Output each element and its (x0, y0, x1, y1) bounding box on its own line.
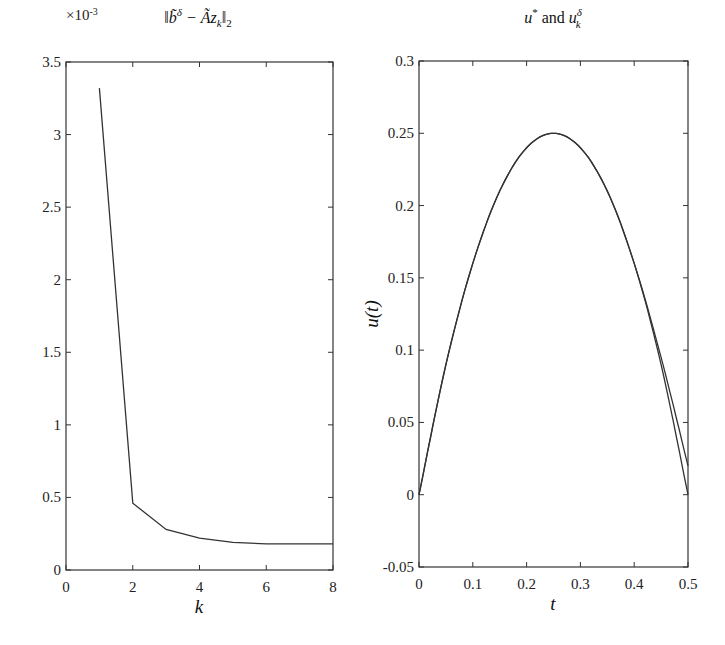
left-axes-box (66, 62, 333, 570)
figure: ‖b̃δ − Ãzk‖2 ×10-3 02468 00.511.522.533.… (0, 0, 725, 645)
y-tick-label: 3 (54, 127, 62, 143)
y-tick-label: -0.05 (383, 559, 414, 575)
y-tick-label: 2.5 (42, 199, 61, 215)
y-tick-label: 0.05 (388, 414, 414, 430)
y-tick-label: 2 (54, 272, 62, 288)
y-tick-label: 0.25 (388, 125, 414, 141)
left-x-axis-label: k (195, 596, 204, 617)
right-plot-title: u* and uδk (524, 6, 583, 30)
y-tick-label: 0.1 (395, 342, 414, 358)
y-tick-label: 0 (54, 562, 62, 578)
left-plot-title: ‖b̃δ − Ãzk‖2 (164, 6, 231, 29)
right-y-axis-label: u(t) (361, 300, 383, 327)
y-tick-label: 3.5 (42, 54, 61, 70)
right-series-line-0 (419, 133, 688, 494)
y-tick-label: 0 (407, 487, 415, 503)
y-tick-label: 0.3 (395, 53, 414, 69)
x-tick-label: 0 (415, 576, 423, 592)
y-tick-label: 0.2 (395, 198, 414, 214)
left-plot: ‖b̃δ − Ãzk‖2 ×10-3 02468 00.511.522.533.… (42, 6, 337, 617)
x-tick-label: 0.2 (517, 576, 536, 592)
y-multiplier-label: ×10-3 (66, 6, 98, 23)
x-tick-label: 0.3 (571, 576, 590, 592)
x-tick-label: 0.1 (463, 576, 482, 592)
y-tick-label: 0.15 (388, 270, 414, 286)
x-tick-label: 0.4 (625, 576, 644, 592)
x-tick-label: 8 (329, 579, 337, 595)
right-plot: u* and uδk 00.10.20.30.40.5 -0.0500.050.… (361, 6, 697, 614)
y-tick-label: 1 (54, 417, 62, 433)
right-axes-box (419, 61, 688, 567)
y-tick-label: 1.5 (42, 344, 61, 360)
x-tick-label: 4 (196, 579, 204, 595)
x-tick-label: 2 (129, 579, 137, 595)
right-x-axis-label: t (550, 593, 556, 614)
x-tick-label: 0 (62, 579, 70, 595)
y-tick-label: 0.5 (42, 489, 61, 505)
x-tick-label: 6 (263, 579, 271, 595)
right-series-line-1 (419, 133, 688, 494)
left-series-line-0 (99, 88, 333, 544)
x-tick-label: 0.5 (679, 576, 698, 592)
